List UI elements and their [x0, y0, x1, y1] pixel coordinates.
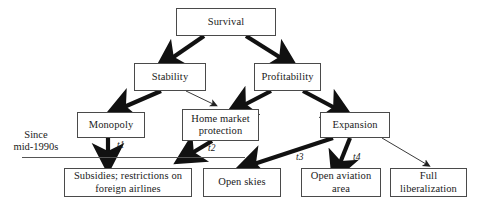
node-full-liberalization-label-line1: Full	[417, 170, 440, 183]
edge-stability-monopoly	[124, 91, 161, 107]
node-subsidies-restrictions-label-line1: Subsidies; restrictions on	[71, 170, 185, 183]
edge-survival-profitability	[246, 36, 281, 58]
node-expansion-label: Expansion	[329, 119, 380, 132]
edge-stability-home-market-protection	[186, 91, 213, 104]
node-full-liberalization[interactable]: Full liberalization	[390, 168, 467, 197]
node-home-market-protection-label-line1: Home market	[188, 113, 253, 126]
transition-label-t1: t1	[117, 140, 124, 150]
node-monopoly[interactable]: Monopoly	[77, 112, 145, 138]
node-profitability[interactable]: Profitability	[254, 63, 321, 91]
node-full-liberalization-label-line2: liberalization	[397, 183, 460, 196]
node-home-market-protection[interactable]: Home market protection	[182, 109, 259, 141]
node-subsidies-restrictions[interactable]: Subsidies; restrictions on foreign airli…	[64, 168, 192, 197]
timeline-label-line1: Since	[5, 129, 67, 141]
timeline-label-line2: mid-1990s	[2, 141, 70, 153]
node-open-skies-label: Open skies	[215, 176, 268, 189]
node-home-market-protection-label-line2: protection	[196, 125, 246, 138]
edge-profitability-home-market-protection	[244, 91, 271, 105]
edge-profitability-expansion	[303, 91, 335, 108]
edge-expansion-open-aviation-area	[340, 138, 350, 163]
node-subsidies-restrictions-label-line2: foreign airlines	[92, 183, 163, 196]
node-profitability-label: Profitability	[258, 71, 316, 84]
edge-survival-stability	[172, 36, 204, 58]
transition-label-t3: t3	[296, 152, 303, 162]
node-survival-label: Survival	[205, 16, 247, 29]
strategy-hierarchy-diagram: Survival Stability Profitability Monopol…	[0, 0, 478, 211]
node-expansion[interactable]: Expansion	[320, 112, 390, 138]
node-open-skies[interactable]: Open skies	[203, 168, 281, 197]
node-open-aviation-area[interactable]: Open aviation area	[301, 168, 381, 197]
edge-expansion-full-liberalization	[382, 138, 426, 164]
transition-label-t2: t2	[208, 143, 215, 153]
node-open-aviation-area-label-line2: area	[329, 183, 353, 196]
edge-expansion-open-skies	[254, 138, 333, 164]
node-stability[interactable]: Stability	[134, 63, 206, 91]
node-open-aviation-area-label-line1: Open aviation	[308, 170, 375, 183]
transition-label-t4: t4	[353, 152, 360, 162]
node-stability-label: Stability	[149, 71, 192, 84]
node-monopoly-label: Monopoly	[86, 119, 137, 132]
node-survival[interactable]: Survival	[176, 8, 276, 36]
